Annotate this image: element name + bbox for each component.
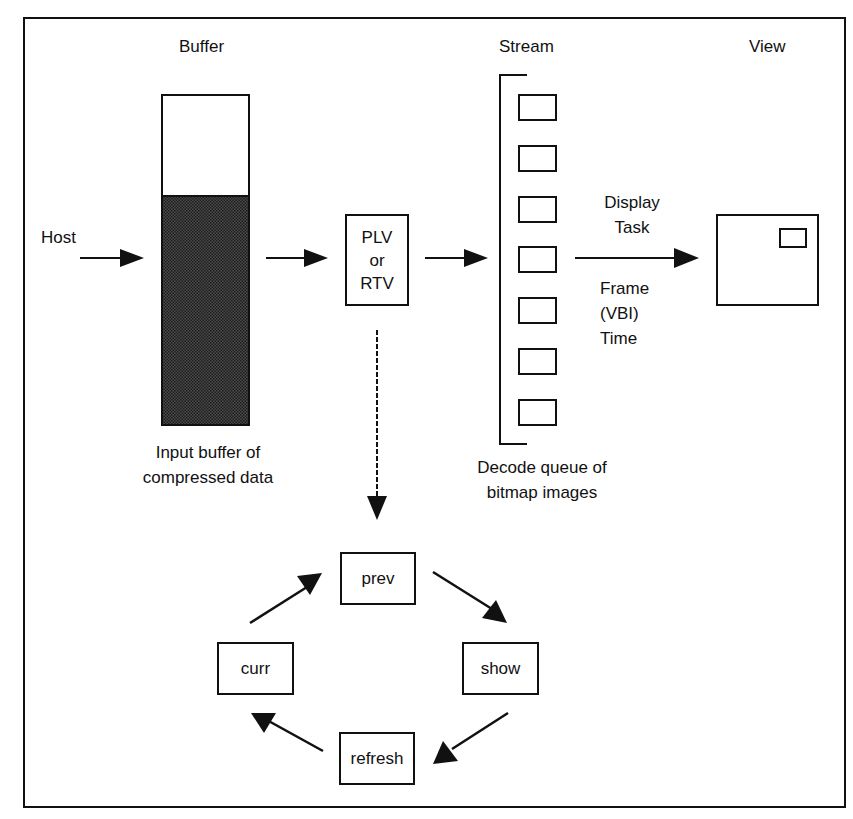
decoder-to-stream-arrow-icon <box>425 249 488 267</box>
decoder-label-line3: RTV <box>360 272 394 295</box>
queue-caption-line2: bitmap images <box>452 480 632 505</box>
refresh-to-curr-arrow-icon <box>251 713 323 751</box>
decoder-label-line2: or <box>369 249 384 272</box>
cycle-label-curr: curr <box>218 643 293 694</box>
show-to-refresh-arrow-icon <box>433 713 508 764</box>
host-arrow-icon <box>80 249 144 267</box>
decode-queue-slots <box>519 95 556 425</box>
outer-frame <box>24 18 845 807</box>
decoder-to-cycle-dashed-arrow-icon <box>367 330 387 520</box>
diagram-canvas <box>0 0 853 819</box>
queue-slot <box>519 400 556 425</box>
display-task-line1: Display <box>592 190 672 215</box>
queue-caption: Decode queue of bitmap images <box>452 455 632 505</box>
decoder-label-line1: PLV <box>362 226 393 249</box>
queue-slot <box>519 298 556 323</box>
cycle-label-show: show <box>463 643 538 694</box>
prev-to-show-arrow-icon <box>433 572 507 623</box>
queue-caption-line1: Decode queue of <box>452 455 632 480</box>
frame-time-line1: Frame <box>600 276 649 301</box>
buffer-caption-line2: compressed data <box>128 465 288 490</box>
buffer-to-decoder-arrow-icon <box>266 249 328 267</box>
display-task-arrow-icon <box>575 248 699 268</box>
cycle-label-prev: prev <box>341 553 415 604</box>
view-inner-frame <box>780 229 806 247</box>
curr-to-prev-arrow-icon <box>250 573 322 623</box>
stream-header: Stream <box>499 34 554 59</box>
decoder-label: PLV or RTV <box>346 215 408 305</box>
view-header: View <box>749 34 786 59</box>
queue-slot <box>519 247 556 272</box>
queue-slot <box>519 146 556 171</box>
host-label: Host <box>41 225 76 250</box>
frame-time-label: Frame (VBI) Time <box>600 276 649 351</box>
buffer-header: Buffer <box>179 34 224 59</box>
queue-slot <box>519 349 556 374</box>
view-screen <box>717 215 818 305</box>
frame-time-line2: (VBI) <box>600 301 649 326</box>
cycle-label-refresh: refresh <box>340 733 414 784</box>
buffer-caption-line1: Input buffer of <box>128 440 288 465</box>
input-buffer <box>162 95 249 425</box>
display-task-line2: Task <box>592 215 672 240</box>
queue-slot <box>519 197 556 222</box>
queue-slot <box>519 95 556 120</box>
frame-time-line3: Time <box>600 326 649 351</box>
display-task-label: Display Task <box>592 190 672 240</box>
buffer-caption: Input buffer of compressed data <box>128 440 288 490</box>
